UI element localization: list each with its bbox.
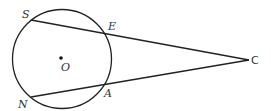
label-A: A [103, 87, 112, 100]
label-O: O [61, 61, 70, 74]
center-point-dot [59, 56, 63, 60]
label-C: C [251, 54, 259, 67]
label-E: E [107, 20, 116, 33]
label-N: N [17, 98, 28, 111]
diagram-canvas: S E O N A C [0, 0, 271, 111]
label-S: S [22, 8, 30, 21]
secant-SC [31, 20, 249, 60]
geometry-diagram: S E O N A C [0, 0, 271, 111]
